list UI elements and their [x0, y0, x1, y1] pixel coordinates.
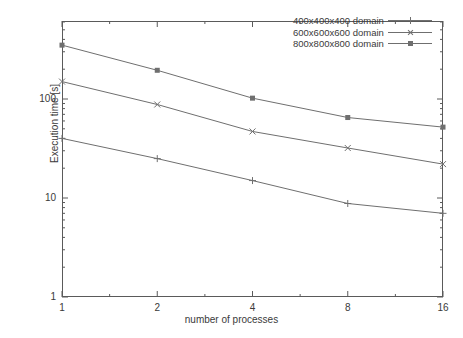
legend-item: 800x800x800 domain: [293, 38, 432, 50]
plot-canvas: [0, 0, 463, 338]
series-line: [62, 82, 443, 165]
y-tick-label: 10: [0, 193, 56, 203]
legend-sample: [388, 27, 432, 38]
series-line: [62, 45, 443, 127]
execution-time-scaling-chart: 110100 124816 Execution time [s] number …: [0, 0, 463, 338]
data-point-marker: [250, 96, 255, 101]
legend-label: 400x400x400 domain: [293, 15, 384, 27]
legend-sample: [388, 15, 432, 26]
x-tick-label: 1: [42, 303, 82, 313]
legend-item: 400x400x400 domain: [293, 15, 432, 27]
series-line: [62, 138, 443, 213]
plus-marker-icon: [407, 17, 414, 24]
data-point-marker: [155, 68, 160, 73]
x-tick-label: 4: [233, 303, 273, 313]
data-point-marker: [441, 125, 446, 130]
x-tick-label: 2: [137, 303, 177, 313]
x-tick-label: 8: [328, 303, 368, 313]
legend-item: 600x600x600 domain: [293, 27, 432, 39]
box-marker-icon: [408, 41, 413, 46]
x-tick-label: 16: [423, 303, 463, 313]
legend-sample: [388, 38, 432, 49]
data-point-marker: [60, 43, 65, 48]
y-tick-label: 1: [0, 292, 56, 302]
legend-label: 600x600x600 domain: [293, 27, 384, 39]
y-axis-title: Execution time [s]: [49, 64, 60, 184]
x-axis-title: number of processes: [0, 314, 463, 325]
chart-legend: 400x400x400 domain600x600x600 domain800x…: [293, 15, 432, 50]
legend-label: 800x800x800 domain: [293, 38, 384, 50]
cross-marker-icon: [407, 29, 414, 36]
data-point-marker: [345, 115, 350, 120]
